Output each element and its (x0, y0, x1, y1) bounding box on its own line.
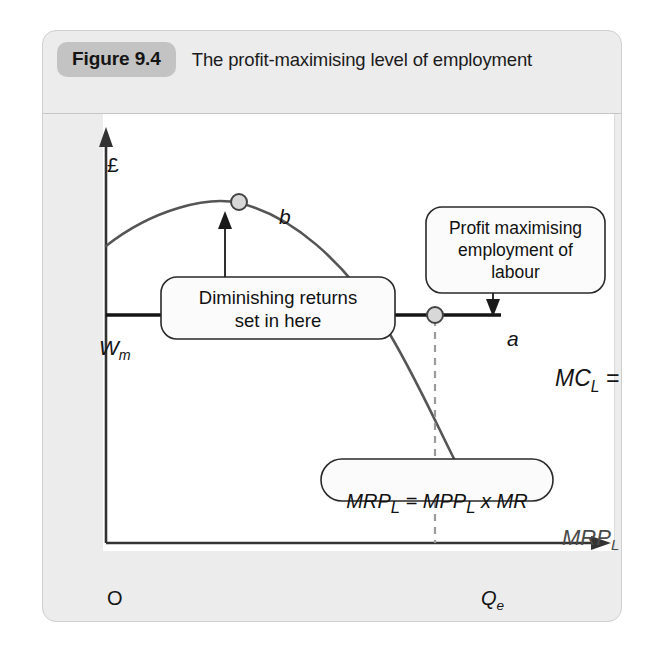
wage-axis-label: Wm (99, 336, 131, 363)
y-axis (99, 127, 113, 543)
x-axis-label: Q of labour (328, 619, 422, 622)
origin-label: O (107, 587, 123, 610)
chart-canvas (43, 31, 622, 622)
callout-formula (321, 459, 553, 501)
point-b-marker (231, 194, 247, 210)
x-axis (106, 536, 611, 550)
mrp-curve (106, 201, 469, 488)
point-a-label: a (507, 327, 519, 351)
mc-symbol: MC (555, 365, 591, 391)
qe-tick-label: Qe (481, 587, 504, 613)
point-b-label: b (279, 205, 291, 229)
figure-card: Figure 9.4 The profit-maximising level o… (42, 30, 622, 622)
qe-subscript: e (497, 598, 505, 613)
y-axis-label: £ (107, 153, 119, 177)
wage-symbol: W (99, 336, 119, 359)
mrp-symbol: MRP (562, 525, 611, 550)
callout-diminishing-returns (161, 211, 395, 339)
wage-subscript: m (119, 347, 131, 363)
mrp-curve-label: MRPL (562, 525, 619, 553)
point-a-marker (427, 307, 443, 323)
mc-line-label: MCL = W (555, 365, 622, 396)
mc-equals-w: = W (599, 365, 622, 391)
qe-symbol: Q (481, 587, 497, 609)
callout-profit-maximising (426, 207, 605, 317)
mrp-subscript: L (611, 536, 619, 553)
